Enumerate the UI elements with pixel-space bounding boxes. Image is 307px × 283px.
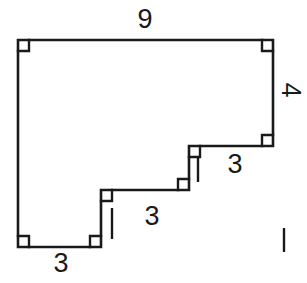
dimension-label-upper-step: 3 — [221, 151, 249, 178]
polygon-drawing — [0, 0, 307, 283]
geometry-figure: 9 4 3 3 3 — [0, 0, 307, 283]
dimension-label-top: 9 — [131, 6, 159, 33]
dimension-label-bottom: 3 — [47, 250, 75, 277]
right-angle-marker-step2-corner — [101, 190, 112, 201]
dimension-label-lower-step: 3 — [138, 203, 166, 230]
right-angle-marker-step1-corner — [189, 146, 200, 157]
dimension-label-right: 4 — [277, 76, 304, 104]
